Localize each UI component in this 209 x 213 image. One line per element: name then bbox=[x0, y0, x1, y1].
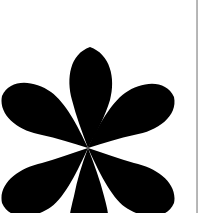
flower-glyph bbox=[0, 0, 209, 213]
image-canvas: Six-petal flower asterisk glyph bbox=[0, 0, 209, 213]
vertical-page-divider bbox=[196, 0, 198, 213]
